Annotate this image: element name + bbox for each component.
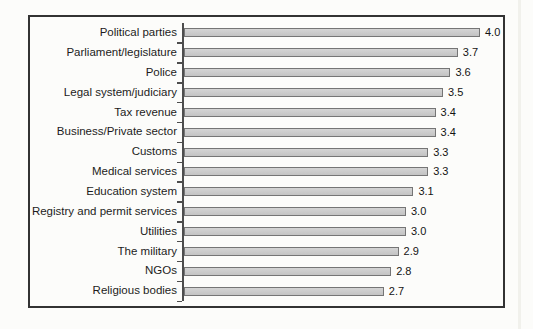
bar bbox=[184, 108, 436, 117]
category-label: Medical services bbox=[30, 166, 182, 178]
chart-row: Customs3.3 bbox=[30, 142, 503, 162]
value-label: 3.4 bbox=[441, 107, 456, 118]
bar bbox=[184, 287, 384, 296]
category-label: Tax revenue bbox=[30, 107, 182, 119]
value-label: 3.1 bbox=[418, 186, 433, 197]
chart-row: Religious bodies2.7 bbox=[30, 281, 503, 301]
value-label: 2.8 bbox=[396, 266, 411, 277]
bar-area: 3.4 bbox=[182, 122, 503, 142]
bar-area: 3.0 bbox=[182, 202, 503, 222]
bar bbox=[184, 207, 406, 216]
chart-row: Business/Private sector3.4 bbox=[30, 122, 503, 142]
bar-area: 3.0 bbox=[182, 222, 503, 242]
value-label: 3.7 bbox=[463, 47, 478, 58]
chart-frame: Political parties4.0Parliament/legislatu… bbox=[28, 15, 505, 308]
chart-row: Utilities3.0 bbox=[30, 222, 503, 242]
bar bbox=[184, 48, 458, 57]
category-label: Parliament/legislature bbox=[30, 47, 182, 59]
scan-artifact-stripe bbox=[518, 0, 521, 329]
chart-row: The military2.9 bbox=[30, 241, 503, 261]
chart-row: Medical services3.3 bbox=[30, 162, 503, 182]
bar bbox=[184, 267, 391, 276]
category-label: NGOs bbox=[30, 265, 182, 277]
value-label: 3.4 bbox=[441, 127, 456, 138]
bar-area: 3.3 bbox=[182, 162, 503, 182]
bar bbox=[184, 88, 443, 97]
category-label: Education system bbox=[30, 186, 182, 198]
chart-row: Education system3.1 bbox=[30, 182, 503, 202]
bar-chart-plot-area: Political parties4.0Parliament/legislatu… bbox=[30, 23, 503, 301]
axis-tick bbox=[177, 301, 182, 303]
bar-chart-figure: Political parties4.0Parliament/legislatu… bbox=[0, 0, 533, 329]
chart-row: Political parties4.0 bbox=[30, 23, 503, 43]
bar bbox=[184, 68, 450, 77]
chart-row: Legal system/judiciary3.5 bbox=[30, 83, 503, 103]
chart-row: NGOs2.8 bbox=[30, 261, 503, 281]
bar-area: 3.1 bbox=[182, 182, 503, 202]
category-label: Utilities bbox=[30, 226, 182, 238]
category-label: Legal system/judiciary bbox=[30, 87, 182, 99]
category-label: Political parties bbox=[30, 27, 182, 39]
value-label: 3.5 bbox=[448, 87, 463, 98]
value-label: 4.0 bbox=[485, 27, 500, 38]
category-label: Police bbox=[30, 67, 182, 79]
bar bbox=[184, 187, 413, 196]
value-label: 3.3 bbox=[433, 166, 448, 177]
bar bbox=[184, 128, 436, 137]
value-label: 3.0 bbox=[411, 226, 426, 237]
bar-area: 2.7 bbox=[182, 281, 503, 301]
value-label: 2.7 bbox=[389, 286, 404, 297]
category-label: Business/Private sector bbox=[30, 126, 182, 138]
bar-area: 4.0 bbox=[182, 23, 503, 43]
bar-area: 3.7 bbox=[182, 43, 503, 63]
bar bbox=[184, 247, 399, 256]
value-label: 3.3 bbox=[433, 147, 448, 158]
bar-area: 3.6 bbox=[182, 63, 503, 83]
value-label: 3.0 bbox=[411, 206, 426, 217]
bar-area: 3.4 bbox=[182, 102, 503, 122]
bar bbox=[184, 148, 428, 157]
bar-area: 2.9 bbox=[182, 241, 503, 261]
chart-row: Tax revenue3.4 bbox=[30, 102, 503, 122]
chart-row: Parliament/legislature3.7 bbox=[30, 43, 503, 63]
bar bbox=[184, 227, 406, 236]
chart-row: Registry and permit services3.0 bbox=[30, 202, 503, 222]
chart-row: Police3.6 bbox=[30, 63, 503, 83]
category-label: Registry and permit services bbox=[30, 206, 182, 218]
value-label: 3.6 bbox=[455, 67, 470, 78]
bar bbox=[184, 28, 480, 37]
value-label: 2.9 bbox=[404, 246, 419, 257]
bar bbox=[184, 167, 428, 176]
bar-area: 3.5 bbox=[182, 83, 503, 103]
category-label: Customs bbox=[30, 146, 182, 158]
category-label: The military bbox=[30, 246, 182, 258]
bar-area: 3.3 bbox=[182, 142, 503, 162]
category-label: Religious bodies bbox=[30, 285, 182, 297]
bar-area: 2.8 bbox=[182, 261, 503, 281]
